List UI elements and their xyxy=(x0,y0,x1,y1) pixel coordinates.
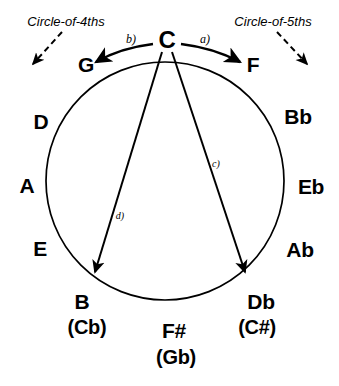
caption-circle-of-4ths: Circle-of-4ths xyxy=(27,15,104,29)
circle-of-fifths-figure: Circle-of-4ths Circle-of-5ths C G F D Bb… xyxy=(0,0,339,386)
note-label-ab: Ab xyxy=(286,239,313,260)
note-label-e: E xyxy=(33,238,47,259)
note-label-f: F xyxy=(247,54,260,75)
note-label-a: A xyxy=(20,175,35,196)
note-label-b-enharmonic: (Cb) xyxy=(68,317,107,337)
circle-outline xyxy=(46,62,284,300)
note-label-d: D xyxy=(34,111,49,132)
caption-circle-of-5ths: Circle-of-5ths xyxy=(234,15,311,29)
dashed-arrow-circle-of-4ths xyxy=(33,32,62,64)
note-label-db-enharmonic: (C#) xyxy=(238,317,276,337)
annotation-c: c) xyxy=(212,159,220,169)
note-label-bb: Bb xyxy=(284,106,311,127)
arrow-a-c-to-f xyxy=(181,44,240,62)
arrow-d-c-to-b xyxy=(95,52,162,272)
note-label-g: G xyxy=(78,54,94,75)
note-label-fsharp-enharmonic: (Gb) xyxy=(156,347,196,367)
note-label-db: Db xyxy=(247,291,274,312)
annotation-d: d) xyxy=(116,211,124,221)
note-label-fsharp: F# xyxy=(162,320,186,341)
note-label-eb: Eb xyxy=(298,176,324,197)
annotation-b: b) xyxy=(126,33,136,45)
annotation-a: a) xyxy=(200,33,210,45)
dashed-arrow-circle-of-5ths xyxy=(277,32,307,64)
note-label-c: C xyxy=(158,28,175,52)
arrow-b-c-to-g xyxy=(96,44,153,62)
note-label-b: B xyxy=(75,291,90,312)
